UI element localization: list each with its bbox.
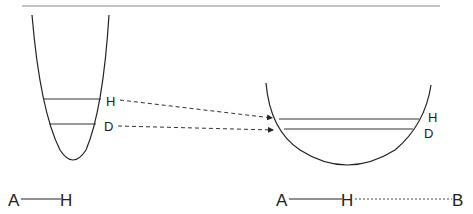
left-bond-atom-a: A — [8, 191, 20, 210]
diagram-canvas: H D H D A H A H B — [0, 0, 473, 214]
right-level-h-label: H — [428, 110, 437, 125]
right-level-d-label: D — [424, 126, 433, 141]
arrow-d — [118, 126, 273, 130]
right-bond-atom-a: A — [276, 191, 288, 210]
left-potential-well — [32, 15, 109, 160]
left-bond-atom-h: H — [60, 191, 72, 210]
right-bond-atom-b: B — [452, 191, 463, 210]
left-level-d-label: D — [104, 119, 113, 134]
arrow-h — [120, 100, 272, 118]
right-potential-well — [266, 83, 431, 165]
right-bond-atom-h: H — [341, 191, 353, 210]
left-level-h-label: H — [106, 94, 115, 109]
